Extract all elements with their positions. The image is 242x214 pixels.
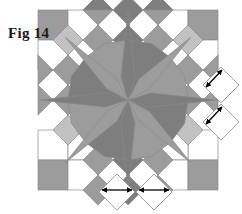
half-diamond-patch [143, 0, 173, 10]
figure-canvas: Fig 14 [0, 0, 242, 214]
figure-label: Fig 14 [8, 26, 49, 41]
half-diamond-patch [83, 0, 113, 10]
square-patch [38, 160, 68, 190]
square-patch [188, 160, 218, 190]
patchwork-group [38, 0, 218, 205]
